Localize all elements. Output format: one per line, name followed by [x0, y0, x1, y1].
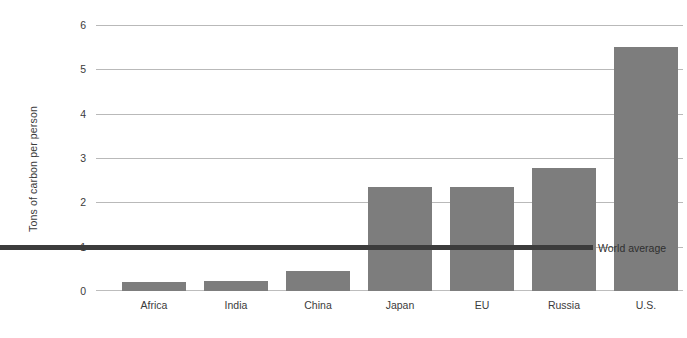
bar-india: [204, 281, 268, 291]
x-label-us: U.S.: [614, 300, 678, 311]
x-label-africa: Africa: [122, 300, 186, 311]
y-tick-label-6: 6: [52, 20, 86, 31]
gridline-3: [96, 158, 683, 159]
y-tick-label-0: 0: [52, 286, 86, 297]
y-tick-label-4: 4: [52, 109, 86, 120]
world-average-label: World average: [598, 243, 666, 254]
plot-area: World average: [96, 25, 683, 291]
bar-russia: [532, 168, 596, 291]
world-average-line: [0, 245, 593, 250]
gridline-4: [96, 114, 683, 115]
gridline-6: [96, 25, 683, 26]
y-axis-tick-labels: 6 5 4 3 2 1 0: [52, 25, 86, 291]
x-label-china: China: [286, 300, 350, 311]
x-label-india: India: [204, 300, 268, 311]
bar-japan: [368, 187, 432, 291]
bar-chart: Tons of carbon per person 6 5 4 3 2 1 0 …: [0, 0, 687, 338]
x-label-japan: Japan: [368, 300, 432, 311]
x-label-russia: Russia: [532, 300, 596, 311]
x-label-eu: EU: [450, 300, 514, 311]
bar-china: [286, 271, 350, 291]
x-axis-tick-labels: Africa India China Japan EU Russia U.S.: [96, 300, 683, 320]
y-tick-label-3: 3: [52, 153, 86, 164]
y-axis-title: Tons of carbon per person: [22, 0, 44, 338]
y-tick-label-5: 5: [52, 64, 86, 75]
bar-eu: [450, 187, 514, 291]
bar-us: [614, 47, 678, 291]
y-tick-label-2: 2: [52, 197, 86, 208]
bar-africa: [122, 282, 186, 291]
gridline-5: [96, 69, 683, 70]
